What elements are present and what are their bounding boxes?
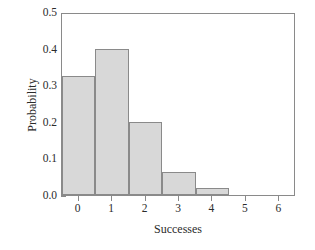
bar-4 bbox=[196, 188, 229, 195]
x-tick-label-0: 0 bbox=[66, 203, 90, 215]
y-tick-label-0.5: 0.5 bbox=[27, 7, 57, 19]
x-tick-mark-5 bbox=[245, 196, 246, 201]
plot-area bbox=[61, 13, 295, 196]
y-tick-label-0.4: 0.4 bbox=[27, 44, 57, 56]
bar-0 bbox=[62, 76, 95, 195]
x-tick-mark-6 bbox=[278, 196, 279, 201]
x-tick-label-2: 2 bbox=[133, 203, 157, 215]
x-tick-label-4: 4 bbox=[199, 203, 223, 215]
x-tick-mark-4 bbox=[211, 196, 212, 201]
x-tick-label-3: 3 bbox=[166, 203, 190, 215]
bar-3 bbox=[162, 172, 195, 195]
y-tick-label-0.1: 0.1 bbox=[27, 154, 57, 166]
y-tick-label-0.3: 0.3 bbox=[27, 80, 57, 92]
x-tick-label-1: 1 bbox=[99, 203, 123, 215]
x-tick-label-6: 6 bbox=[266, 203, 290, 215]
probability-bar-chart: Probability 0.00.10.20.30.40.5 0123456 S… bbox=[0, 0, 315, 250]
x-tick-mark-0 bbox=[78, 196, 79, 201]
x-tick-mark-3 bbox=[178, 196, 179, 201]
y-tick-label-0.2: 0.2 bbox=[27, 117, 57, 129]
y-tick-mark-0.0 bbox=[61, 196, 66, 197]
x-tick-mark-1 bbox=[111, 196, 112, 201]
bar-1 bbox=[95, 49, 128, 195]
bar-2 bbox=[129, 122, 162, 195]
y-tick-label-0.0: 0.0 bbox=[27, 190, 57, 202]
x-tick-mark-2 bbox=[145, 196, 146, 201]
x-tick-label-5: 5 bbox=[233, 203, 257, 215]
x-axis-title: Successes bbox=[61, 222, 295, 237]
y-axis-tick-labels: 0.00.10.20.30.40.5 bbox=[19, 0, 57, 250]
